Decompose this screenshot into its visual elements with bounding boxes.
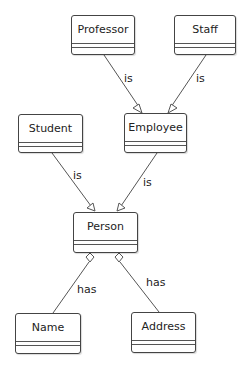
methods-compartment [16,345,80,346]
edge-student-person [52,153,91,206]
class-name: Employee [125,114,186,141]
class-address[interactable]: Address [131,312,196,353]
edge-label-person-address: has [146,276,165,289]
class-professor[interactable]: Professor [71,15,135,55]
class-staff[interactable]: Staff [174,15,236,55]
class-name: Student [19,115,82,142]
generalization-arrow-icon [168,104,177,113]
aggregation-diamond-icon [115,253,123,262]
class-person[interactable]: Person [73,212,138,253]
methods-compartment [72,47,134,48]
generalization-arrow-icon [133,104,142,113]
methods-compartment [19,146,82,147]
edge-label-person-name: has [77,283,96,296]
class-name: Name [16,314,80,341]
attributes-compartment [19,142,82,143]
attributes-compartment [132,340,195,341]
methods-compartment [125,145,186,146]
edge-label-staff-employee: is [196,72,205,85]
attributes-compartment [175,43,235,44]
edge-professor-employee [104,55,139,107]
edge-label-student-person: is [73,169,82,182]
generalization-arrow-icon [117,203,125,211]
methods-compartment [74,244,137,245]
class-employee[interactable]: Employee [124,113,187,153]
methods-compartment [132,344,195,345]
class-name: Professor [72,16,134,43]
edge-label-employee-person: is [143,176,152,189]
class-name: Person [74,213,137,240]
aggregation-diamond-icon [86,253,94,262]
attributes-compartment [16,341,80,342]
edge-label-professor-employee: is [124,72,133,85]
attributes-compartment [72,43,134,44]
class-name: Address [132,313,195,340]
class-name: Staff [175,16,235,43]
methods-compartment [175,47,235,48]
attributes-compartment [74,240,137,241]
class-name[interactable]: Name [15,313,81,354]
generalization-arrow-icon [87,203,95,211]
attributes-compartment [125,141,186,142]
class-student[interactable]: Student [18,114,83,153]
